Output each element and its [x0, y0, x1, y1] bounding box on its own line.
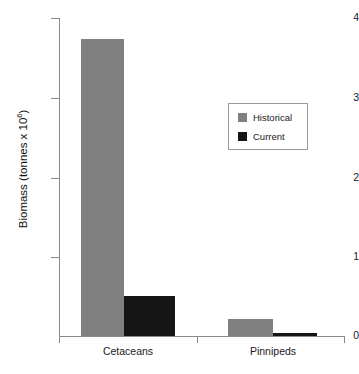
legend-swatch-historical-icon [238, 113, 247, 122]
x-category-label-pinnipeds: Pinnipeds [213, 345, 333, 357]
chart-figure: Biomass (tonnes x 106) 4 3 2 1 0 Cetacea… [0, 0, 359, 374]
legend-label-current: Current [253, 132, 285, 142]
legend-entry-historical: Historical [238, 113, 292, 123]
x-tick-end [344, 336, 345, 343]
bar-cetaceans-historical [81, 39, 124, 336]
bar-pinnipeds-current [273, 333, 317, 336]
x-tick-middle [197, 336, 198, 343]
legend-entry-current: Current [238, 132, 285, 142]
plot-area [0, 0, 359, 336]
legend-swatch-current-icon [238, 132, 247, 141]
x-tick-start [59, 336, 60, 343]
x-category-label-cetaceans: Cetaceans [68, 345, 188, 357]
bar-cetaceans-current [124, 296, 175, 336]
legend-label-historical: Historical [253, 113, 292, 123]
legend: Historical Current [228, 103, 308, 150]
bar-pinnipeds-historical [228, 319, 273, 336]
